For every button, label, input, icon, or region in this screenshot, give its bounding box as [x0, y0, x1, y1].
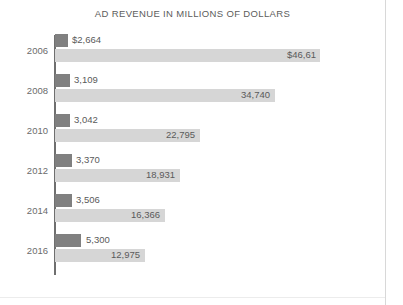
chart-row: 2006 $2,664 $46,61	[0, 32, 385, 72]
category-label-2014: 2014	[0, 205, 48, 216]
chart-row: 2010 3,042 22,795	[0, 112, 385, 152]
bar-dark-2012	[55, 154, 72, 167]
bar-value-dark-2010: 3,042	[74, 113, 98, 126]
bar-value-light-2008: 34,740	[212, 88, 270, 101]
bar-value-dark-2016: 5,300	[86, 233, 110, 246]
bar-value-dark-2008: 3,109	[74, 73, 98, 86]
chart-row: 2016 5,300 12,975	[0, 232, 385, 272]
bar-dark-2016	[55, 234, 81, 247]
bar-value-dark-2006: $2,664	[72, 33, 101, 46]
bar-group-2014: 3,506 16,366	[55, 192, 385, 232]
bar-group-2012: 3,370 18,931	[55, 152, 385, 192]
bar-group-2010: 3,042 22,795	[55, 112, 385, 152]
category-label-2008: 2008	[0, 85, 48, 96]
bar-dark-2010	[55, 114, 70, 127]
category-label-2006: 2006	[0, 45, 48, 56]
bar-chart-plot: 2006 $2,664 $46,61 2008 3,109 34,740 201…	[0, 32, 385, 280]
chart-title: AD REVENUE IN MILLIONS OF DOLLARS	[0, 8, 385, 19]
chart-row: 2012 3,370 18,931	[0, 152, 385, 192]
category-label-2016: 2016	[0, 245, 48, 256]
bar-value-light-2006: $46,61	[260, 48, 316, 61]
bar-value-light-2016: 12,975	[82, 248, 140, 261]
chart-page: AD REVENUE IN MILLIONS OF DOLLARS 2006 $…	[0, 0, 403, 305]
bar-group-2008: 3,109 34,740	[55, 72, 385, 112]
chart-row: 2008 3,109 34,740	[0, 72, 385, 112]
bar-value-light-2010: 22,795	[137, 128, 195, 141]
bar-dark-2014	[55, 194, 72, 207]
bar-dark-2008	[55, 74, 70, 87]
page-rule-vertical	[385, 0, 386, 305]
bar-value-dark-2012: 3,370	[76, 153, 100, 166]
bar-value-dark-2014: 3,506	[76, 193, 100, 206]
category-label-2010: 2010	[0, 125, 48, 136]
bar-dark-2006	[55, 34, 68, 47]
bar-group-2006: $2,664 $46,61	[55, 32, 385, 72]
bar-value-light-2014: 16,366	[102, 208, 160, 221]
page-rule-horizontal	[0, 297, 385, 298]
category-label-2012: 2012	[0, 165, 48, 176]
chart-row: 2014 3,506 16,366	[0, 192, 385, 232]
bar-group-2016: 5,300 12,975	[55, 232, 385, 272]
bar-value-light-2012: 18,931	[117, 168, 175, 181]
